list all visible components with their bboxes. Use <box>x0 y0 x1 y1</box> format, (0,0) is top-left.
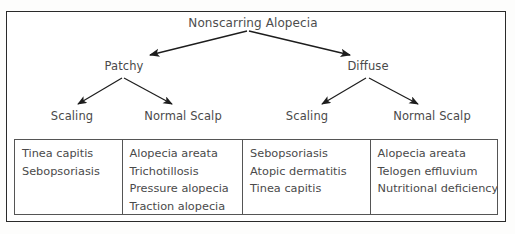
list-item: Trichotillosis <box>130 163 243 181</box>
list-item: Pressure alopecia <box>130 180 243 198</box>
diagnosis-column-patchy-normal-scalp: Alopecia areata Trichotillosis Pressure … <box>123 140 244 214</box>
list-item: Alopecia areata <box>378 145 497 163</box>
list-item: Telogen effluvium <box>378 163 497 181</box>
diagnosis-column-diffuse-normal-scalp: Alopecia areata Telogen effluvium Nutrit… <box>371 140 497 214</box>
node-patchy-scaling-label: Scaling <box>51 110 93 123</box>
list-item: Atopic dermatitis <box>250 163 369 181</box>
list-item: Alopecia areata <box>130 145 243 163</box>
node-diffuse-label: Diffuse <box>347 60 388 73</box>
list-item: Tinea capitis <box>22 145 122 163</box>
diagnosis-column-diffuse-scaling: Sebopsoriasis Atopic dermatitis Tinea ca… <box>243 140 370 214</box>
list-item: Sebopsoriasis <box>250 145 369 163</box>
node-diffuse-normal-scalp-label: Normal Scalp <box>393 110 471 123</box>
diagnosis-column-patchy-scaling: Tinea capitis Sebopsoriasis <box>15 140 123 214</box>
diagnosis-table: Tinea capitis Sebopsoriasis Alopecia are… <box>14 139 498 215</box>
list-item: Nutritional deficiency <box>378 180 497 198</box>
node-root-label: Nonscarring Alopecia <box>188 17 317 30</box>
node-patchy-normal-scalp-label: Normal Scalp <box>144 110 222 123</box>
list-item: Tinea capitis <box>250 180 369 198</box>
list-item: Sebopsoriasis <box>22 163 122 181</box>
list-item: Traction alopecia <box>130 198 243 215</box>
node-diffuse-scaling-label: Scaling <box>286 110 328 123</box>
diagram-page: Nonscarring Alopecia Patchy Diffuse Scal… <box>0 0 515 234</box>
node-patchy-label: Patchy <box>105 60 144 73</box>
